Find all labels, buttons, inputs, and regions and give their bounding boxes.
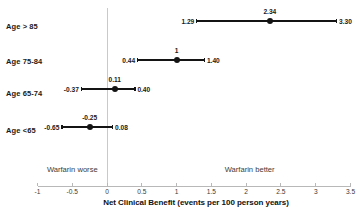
x-axis-tick	[350, 183, 351, 186]
x-axis-tick	[141, 183, 142, 186]
estimate-marker	[267, 18, 273, 24]
ci-cap-lower	[196, 19, 197, 23]
ci-upper-label: 0.40	[137, 86, 150, 93]
x-axis-tick-label: 2.5	[276, 188, 285, 195]
x-axis-tick	[72, 183, 73, 186]
x-axis-tick-label: 1	[175, 188, 179, 195]
x-axis-title: Net Clinical Benefit (events per 100 per…	[103, 198, 289, 207]
reference-line-zero	[107, 8, 108, 186]
ci-upper-label: 3.30	[339, 18, 352, 25]
ci-cap-upper	[204, 58, 205, 62]
category-label: Age > 85	[6, 22, 38, 31]
ci-lower-label: -0.37	[64, 86, 79, 93]
x-axis-tick-label: -0.5	[67, 188, 78, 195]
forest-plot: Age > 851.293.302.34Age 75-840.441.401Ag…	[0, 0, 359, 213]
x-axis-tick-label: -1	[35, 188, 41, 195]
x-axis-tick	[280, 183, 281, 186]
estimate-label: 2.34	[263, 8, 276, 15]
x-axis-line	[38, 186, 351, 187]
x-axis-tick	[246, 183, 247, 186]
x-axis-tick-label: 1.5	[207, 188, 216, 195]
x-axis-tick-label: 0.5	[137, 188, 146, 195]
estimate-label: 0.11	[108, 76, 120, 83]
ci-lower-label: -0.65	[44, 124, 59, 131]
confidence-interval-line	[138, 59, 205, 61]
ci-cap-lower	[81, 87, 82, 91]
ci-cap-lower	[61, 125, 62, 129]
category-label: Age 65-74	[6, 89, 42, 98]
x-axis-tick-label: 2	[244, 188, 248, 195]
ci-cap-lower	[137, 58, 138, 62]
ci-lower-label: 1.29	[181, 18, 194, 25]
estimate-marker	[112, 86, 118, 92]
estimate-label: 1	[175, 47, 179, 54]
x-axis-tick	[37, 183, 38, 186]
annotation-warfarin-worse: Warfarin worse	[47, 165, 98, 174]
x-axis-tick	[107, 183, 108, 186]
ci-cap-upper	[112, 125, 113, 129]
ci-cap-upper	[336, 19, 337, 23]
x-axis-tick-label: 3	[314, 188, 318, 195]
ci-upper-label: 1.40	[207, 57, 220, 64]
ci-cap-upper	[134, 87, 135, 91]
annotation-warfarin-better: Warfarin better	[225, 165, 275, 174]
x-axis-tick	[176, 183, 177, 186]
estimate-label: -0.25	[82, 114, 97, 121]
x-axis-tick	[211, 183, 212, 186]
confidence-interval-line	[81, 88, 135, 90]
estimate-marker	[174, 57, 180, 63]
ci-lower-label: 0.44	[122, 57, 135, 64]
category-label: Age <65	[6, 126, 36, 135]
category-label: Age 75-84	[6, 57, 42, 66]
x-axis-tick	[315, 183, 316, 186]
ci-upper-label: 0.08	[115, 124, 128, 131]
x-axis-tick-label: 0	[105, 188, 109, 195]
x-axis-tick-label: 3.5	[346, 188, 355, 195]
estimate-marker	[87, 124, 93, 130]
